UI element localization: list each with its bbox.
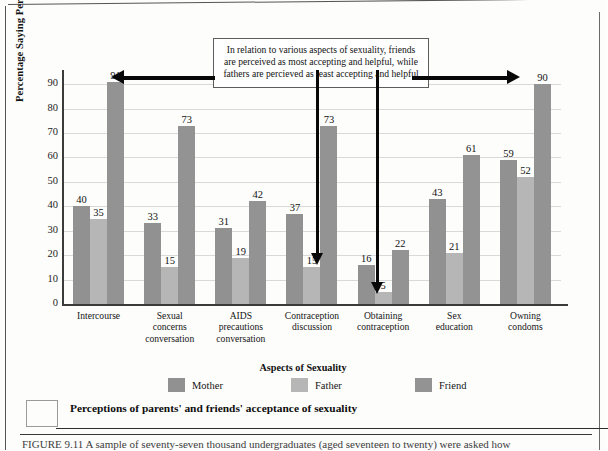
legend-swatch (415, 378, 432, 392)
callout-arrow-right-line (412, 76, 508, 80)
bar-value-label: 43 (432, 187, 443, 198)
bar-friend (178, 126, 195, 304)
bar-value-label: 73 (324, 114, 335, 125)
bar-value-label: 35 (93, 207, 104, 218)
chart-legend: MotherFatherFriend (0, 378, 606, 398)
bar-mother (73, 206, 90, 304)
y-tick-label: 40 (24, 199, 58, 210)
caption-rule (56, 428, 608, 429)
bar-mother (215, 228, 232, 304)
bar-father (517, 177, 534, 304)
bar-friend (107, 82, 124, 304)
bar-value-label: 15 (164, 255, 175, 266)
bar-friend (320, 126, 337, 304)
bar-value-label: 37 (290, 202, 301, 213)
bar-friend (463, 155, 480, 304)
bar-value-label: 73 (181, 114, 192, 125)
x-axis-labels: IntercourseSexualconcernsconversationAID… (63, 310, 561, 360)
y-tick-label: 70 (24, 126, 58, 137)
legend-label: Father (315, 380, 342, 391)
y-tick-label: 0 (24, 297, 58, 308)
y-axis-ticks: 0102030405060708090 (22, 72, 58, 304)
bar-value-label: 61 (466, 143, 477, 154)
callout-arrow-left-head (111, 70, 124, 84)
y-tick-label: 20 (24, 248, 58, 259)
bar-value-label: 16 (361, 253, 372, 264)
legend-swatch (291, 378, 308, 392)
bar-group: 595290 (490, 72, 561, 304)
bar-series-area: 4035913315733119423715731652243216159529… (63, 72, 561, 304)
x-tick-label: Owningcondoms (481, 310, 570, 333)
figure-rule (20, 434, 592, 435)
y-tick-label: 60 (24, 150, 58, 161)
callout-arrow-right-head (507, 70, 520, 84)
bar-value-label: 33 (147, 211, 158, 222)
caption-title: Perceptions of parents' and friends' acc… (70, 402, 357, 414)
y-tick-label: 90 (24, 77, 58, 88)
caption-thumbnail-image (26, 400, 58, 427)
callout-arrow-down-1-head (311, 253, 323, 265)
bar-group: 311942 (205, 72, 276, 304)
page-border-top (8, 0, 604, 5)
y-tick-label: 50 (24, 175, 58, 186)
annotation-callout: In relation to various aspects of sexual… (213, 38, 429, 88)
bar-mother (144, 223, 161, 304)
legend-item-father: Father (291, 378, 342, 392)
bar-value-label: 59 (503, 148, 514, 159)
bar-value-label: 19 (236, 246, 247, 257)
legend-item-friend: Friend (415, 378, 466, 392)
bar-father (446, 253, 463, 304)
y-tick-label: 30 (24, 224, 58, 235)
bar-value-label: 31 (219, 216, 230, 227)
bar-group: 331573 (134, 72, 205, 304)
bar-value-label: 21 (449, 241, 460, 252)
bar-chart: Percentage Saying Person Would Approve 0… (0, 14, 606, 404)
bar-mother (500, 160, 517, 304)
legend-label: Friend (439, 380, 466, 391)
caption-band: Perceptions of parents' and friends' acc… (18, 398, 588, 432)
bar-friend (392, 250, 409, 304)
callout-arrow-left-line (123, 76, 215, 80)
legend-swatch (168, 378, 185, 392)
bar-father (303, 267, 320, 304)
bar-friend (534, 84, 551, 304)
bar-group: 371573 (276, 72, 347, 304)
bar-value-label: 42 (253, 189, 264, 200)
bar-group: 403591 (63, 72, 134, 304)
x-axis-title: Aspects of Sexuality (0, 362, 606, 373)
bar-mother (429, 199, 446, 304)
bar-father (232, 258, 249, 304)
x-axis-line (62, 304, 568, 306)
bar-mother (286, 214, 303, 304)
bar-group: 16522 (348, 72, 419, 304)
figure-caption-text: FIGURE 9.11 A sample of seventy-seven th… (22, 438, 598, 451)
legend-item-mother: Mother (168, 378, 223, 392)
y-tick-label: 10 (24, 273, 58, 284)
bar-father (161, 267, 178, 304)
bar-friend (249, 201, 266, 304)
y-tick-label: 80 (24, 102, 58, 113)
callout-arrow-down-2-head (371, 282, 383, 294)
bar-value-label: 22 (395, 238, 406, 249)
bar-value-label: 90 (537, 72, 548, 83)
bar-value-label: 40 (76, 194, 87, 205)
legend-label: Mother (192, 380, 223, 391)
bar-father (90, 219, 107, 304)
bar-group: 432161 (419, 72, 490, 304)
callout-arrow-down-1-line (316, 70, 319, 255)
callout-arrow-down-2-line (376, 70, 379, 284)
bar-value-label: 52 (520, 165, 531, 176)
